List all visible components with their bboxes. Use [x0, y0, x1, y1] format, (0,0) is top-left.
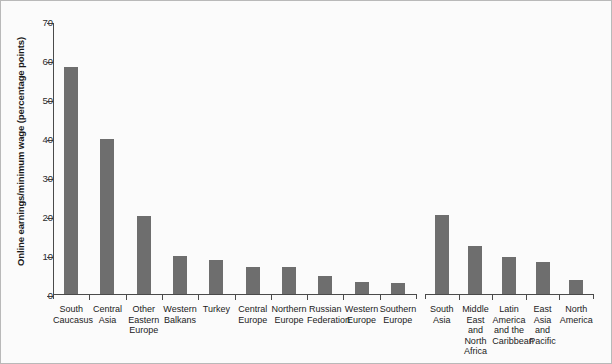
bar — [569, 280, 583, 294]
x-axis-tick — [459, 295, 460, 300]
x-axis-category-label: South Asia — [425, 304, 459, 325]
x-axis-tick — [526, 295, 527, 300]
bar-chart-figure: Online earnings/minimum wage (percentage… — [0, 0, 612, 364]
bar — [468, 246, 482, 294]
x-axis-category-label: East Asia and Pacific — [526, 304, 560, 346]
x-axis-category-label: North America — [559, 304, 593, 325]
x-axis-end-cap — [593, 294, 594, 299]
x-axis-category-label: Latin America and the Caribbean — [492, 304, 526, 346]
x-axis-tick — [492, 295, 493, 300]
bar — [435, 215, 449, 294]
x-axis-category-label: Middle East and North Africa — [459, 304, 493, 357]
bar — [536, 262, 550, 294]
x-axis-baseline — [425, 294, 593, 295]
bar — [502, 257, 516, 294]
chart-group-other-regions: South AsiaMiddle East and North AfricaLa… — [1, 0, 612, 363]
x-axis-tick — [559, 295, 560, 300]
x-axis-end-cap — [425, 294, 426, 299]
